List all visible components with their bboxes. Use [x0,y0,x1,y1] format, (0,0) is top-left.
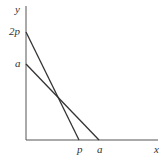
x-tick-a: a [97,143,103,155]
line-2p-to-p [26,32,79,140]
line-a-to-a [26,64,99,140]
y-tick-2p: 2p [9,25,21,37]
x-axis-label: x [153,143,159,155]
x-tick-p: p [76,143,83,155]
diagram: y 2p a p a x [0,0,165,160]
y-axis-label: y [14,3,20,15]
y-tick-a: a [15,57,21,69]
